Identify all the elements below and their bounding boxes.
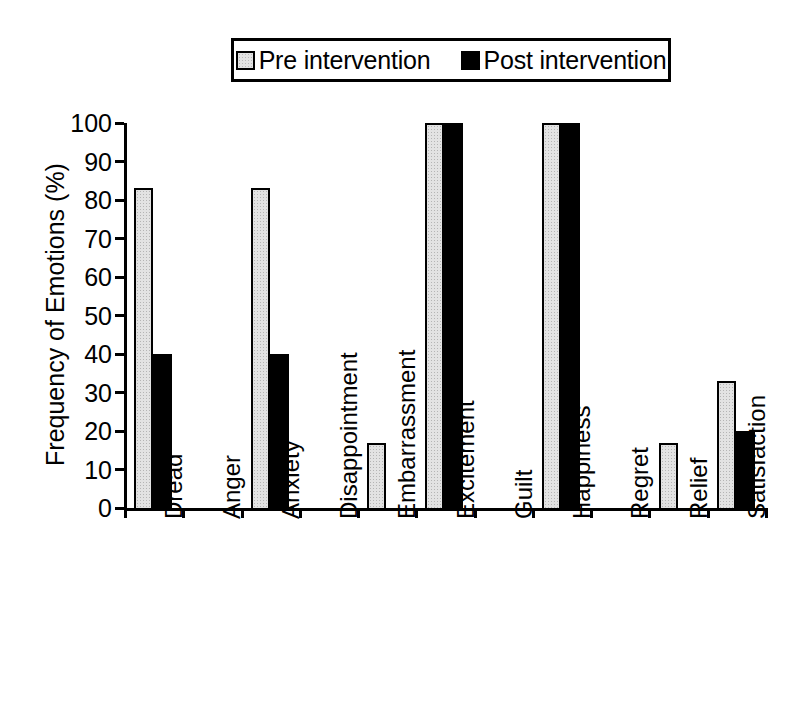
y-axis-tick (115, 391, 124, 394)
legend-swatch-pre-icon (236, 51, 255, 70)
x-axis-label: Happiness (570, 406, 594, 519)
bar-group (182, 123, 240, 508)
y-axis-tick (115, 314, 124, 317)
legend-entry-post-intervention: Post intervention (461, 48, 667, 73)
bar-pre-intervention (425, 123, 444, 508)
bar-pre-intervention (251, 188, 270, 508)
legend-swatch-post-icon (461, 51, 480, 70)
bar-pre-intervention (134, 188, 153, 508)
legend-entry-pre-intervention: Pre intervention (236, 48, 431, 73)
bar-pre-intervention (542, 123, 561, 508)
bar-pre-intervention (717, 381, 736, 508)
chart-legend: Pre intervention Post intervention (231, 38, 671, 82)
x-axis-label: Relief (687, 458, 711, 519)
x-axis-label: Regret (628, 447, 652, 519)
y-axis-tick-label: 100 (70, 111, 112, 136)
plot-area: 0102030405060708090100 DreadAngerAnxiety… (124, 123, 765, 508)
x-axis-label: Disappointment (337, 352, 361, 519)
bar-pre-intervention (367, 443, 386, 508)
y-axis-tick-label: 20 (84, 419, 112, 444)
x-axis-label: Satisfaction (745, 395, 769, 519)
y-axis-tick-label: 60 (84, 265, 112, 290)
bar-group (474, 123, 532, 508)
bar-group (648, 123, 706, 508)
x-axis-label: Excitement (454, 400, 478, 519)
y-axis-tick-label: 50 (84, 303, 112, 328)
x-axis-label: Guilt (512, 470, 536, 519)
x-axis-label: Dread (162, 454, 186, 519)
legend-label-pre: Pre intervention (259, 48, 431, 73)
y-axis-tick-label: 80 (84, 188, 112, 213)
y-axis-tick (115, 430, 124, 433)
legend-label-post: Post intervention (484, 48, 667, 73)
y-axis-tick (115, 237, 124, 240)
y-axis-title: Frequency of Emotions (%) (41, 135, 70, 495)
y-axis-tick (115, 122, 124, 125)
x-axis-label: Anger (220, 455, 244, 519)
bar-group (124, 123, 182, 508)
y-axis-tick (115, 468, 124, 471)
x-axis-tick (124, 508, 127, 518)
y-axis-tick-label: 40 (84, 342, 112, 367)
y-axis-tick (115, 507, 124, 510)
y-axis-tick-label: 70 (84, 226, 112, 251)
y-axis-tick (115, 276, 124, 279)
x-axis-label: Anxiety (279, 440, 303, 519)
y-axis-tick (115, 199, 124, 202)
y-axis-tick-label: 0 (98, 496, 112, 521)
y-axis-tick-label: 90 (84, 149, 112, 174)
y-axis-tick (115, 353, 124, 356)
y-axis-tick (115, 160, 124, 163)
y-axis-tick-label: 10 (84, 457, 112, 482)
chart-figure: Pre intervention Post intervention Frequ… (0, 0, 802, 708)
y-axis-tick-label: 30 (84, 380, 112, 405)
x-axis-label: Embarrassment (395, 350, 419, 519)
bar-pre-intervention (659, 443, 678, 508)
